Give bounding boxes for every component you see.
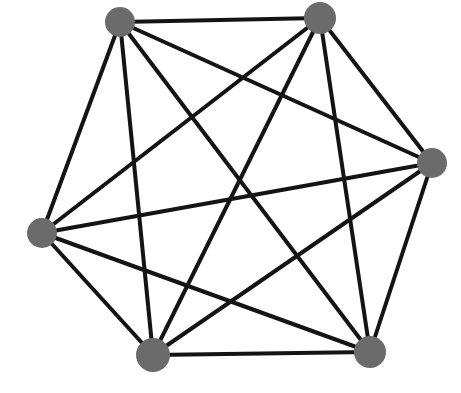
graph-svg bbox=[0, 0, 461, 393]
diagram-canvas bbox=[0, 0, 461, 393]
graph-node-v4 bbox=[354, 336, 386, 368]
graph-node-v6 bbox=[27, 218, 57, 248]
graph-node-v2 bbox=[304, 2, 336, 34]
graph-node-v1 bbox=[105, 7, 135, 37]
graph-node-v3 bbox=[417, 148, 447, 178]
graph-node-v5 bbox=[136, 338, 170, 372]
